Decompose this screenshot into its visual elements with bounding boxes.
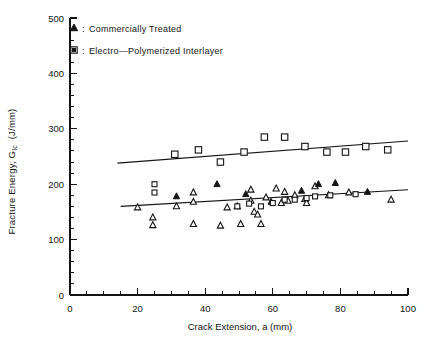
data-point-electro-polymerized xyxy=(292,197,297,202)
marker-triangle-open xyxy=(238,221,244,227)
data-point-commercially-treated xyxy=(364,188,370,194)
axes-group xyxy=(70,18,408,295)
data-point-electro-polymerized xyxy=(152,182,157,187)
y-tick-label: 500 xyxy=(48,13,64,24)
x-tick-label: 40 xyxy=(200,303,211,314)
data-point-commercially-treated xyxy=(273,185,279,191)
marker-triangle-open xyxy=(282,188,288,194)
data-point-commercially-treated xyxy=(190,221,196,227)
data-point-commercially-treated xyxy=(224,204,230,210)
data-point-commercially-treated xyxy=(248,186,254,192)
ticks-group xyxy=(70,18,408,295)
data-point-commercially-treated xyxy=(258,221,264,227)
legend-label: Commercially Treated xyxy=(89,24,182,34)
data-point-electro-polymerized xyxy=(302,143,308,149)
data-point-commercially-treated xyxy=(173,193,179,199)
data-point-commercially-treated xyxy=(214,181,220,187)
marker-triangle-filled xyxy=(332,180,338,186)
x-tick-label: 0 xyxy=(67,303,72,314)
marker-square-open xyxy=(281,134,287,140)
marker-square-open xyxy=(261,134,267,140)
chart-canvas: 0204060801000100200300400500 :Commercial… xyxy=(0,0,431,343)
marker-triangle-open xyxy=(388,196,394,202)
data-point-commercially-treated xyxy=(190,198,196,204)
marker-square-open xyxy=(258,204,263,209)
marker-square-open xyxy=(292,197,297,202)
marker-triangle-filled xyxy=(71,24,78,31)
marker-triangle-filled xyxy=(214,181,220,187)
data-point-commercially-treated xyxy=(238,221,244,227)
marker-triangle-open xyxy=(190,221,196,227)
y-tick-label: 100 xyxy=(48,234,64,245)
marker-square-open xyxy=(353,192,358,197)
chart-figure: 0204060801000100200300400500 :Commercial… xyxy=(0,0,431,343)
data-series-group xyxy=(135,134,395,228)
data-point-electro-polymerized xyxy=(324,149,330,155)
marker-square-open xyxy=(235,204,240,209)
marker-square-open xyxy=(241,149,247,155)
marker-triangle-open xyxy=(273,185,279,191)
marker-square-open xyxy=(363,143,369,149)
x-tick-label: 100 xyxy=(400,303,416,314)
data-point-electro-polymerized xyxy=(217,159,223,165)
legend-entry: :Electro—Polymerized Interlayer xyxy=(71,46,223,56)
data-point-commercially-treated xyxy=(190,189,196,195)
data-point-commercially-treated xyxy=(346,189,352,195)
legend-label: Electro—Polymerized Interlayer xyxy=(89,46,223,56)
marker-triangle-filled xyxy=(173,193,179,199)
data-point-commercially-treated xyxy=(315,181,321,187)
marker-triangle-filled xyxy=(364,188,370,194)
x-tick-label: 80 xyxy=(335,303,346,314)
x-axis-title: Crack Extension, a (mm) xyxy=(188,321,293,332)
marker-square-open xyxy=(270,201,275,206)
data-point-commercially-treated xyxy=(332,180,338,186)
data-point-electro-polymerized xyxy=(385,147,391,153)
data-point-commercially-treated xyxy=(150,222,156,228)
marker-square-open xyxy=(152,190,157,195)
y-tick-label: 300 xyxy=(48,123,64,134)
tick-labels-group: 0204060801000100200300400500 xyxy=(48,13,416,315)
data-point-electro-polymerized xyxy=(235,204,240,209)
marker-triangle-open xyxy=(190,198,196,204)
data-point-electro-polymerized xyxy=(172,151,178,157)
legend-square-core xyxy=(72,48,75,51)
marker-square-open xyxy=(217,159,223,165)
data-point-electro-polymerized xyxy=(342,149,348,155)
data-point-electro-polymerized xyxy=(282,197,287,202)
marker-square-open xyxy=(313,194,318,199)
marker-square-open xyxy=(302,143,308,149)
marker-square-open xyxy=(247,201,252,206)
marker-triangle-open xyxy=(258,221,264,227)
data-point-commercially-treated xyxy=(282,188,288,194)
marker-square-open xyxy=(324,149,330,155)
y-tick-label: 400 xyxy=(48,68,64,79)
fit-lines-group xyxy=(117,141,408,206)
data-point-electro-polymerized xyxy=(152,190,157,195)
data-point-electro-polymerized xyxy=(281,134,287,140)
data-point-electro-polymerized xyxy=(353,192,358,197)
marker-square-open xyxy=(304,196,309,201)
data-point-commercially-treated xyxy=(217,222,223,228)
data-point-commercially-treated xyxy=(298,187,304,193)
data-point-electro-polymerized xyxy=(270,201,275,206)
legend-separator: : xyxy=(82,46,85,56)
marker-triangle-open xyxy=(150,214,156,220)
x-tick-label: 20 xyxy=(132,303,143,314)
data-point-electro-polymerized xyxy=(363,143,369,149)
marker-triangle-open xyxy=(150,222,156,228)
marker-triangle-filled xyxy=(298,187,304,193)
marker-triangle-open xyxy=(346,189,352,195)
marker-triangle-filled xyxy=(315,181,321,187)
x-tick-label: 60 xyxy=(268,303,279,314)
marker-square-open xyxy=(152,182,157,187)
marker-square-open xyxy=(342,149,348,155)
marker-triangle-open xyxy=(248,186,254,192)
data-point-electro-polymerized xyxy=(328,193,333,198)
legend-separator: : xyxy=(82,24,85,34)
y-tick-label: 200 xyxy=(48,179,64,190)
marker-square-open xyxy=(282,197,287,202)
marker-square-open xyxy=(385,147,391,153)
data-point-electro-polymerized xyxy=(241,149,247,155)
marker-triangle-open xyxy=(217,222,223,228)
marker-triangle-open xyxy=(190,189,196,195)
